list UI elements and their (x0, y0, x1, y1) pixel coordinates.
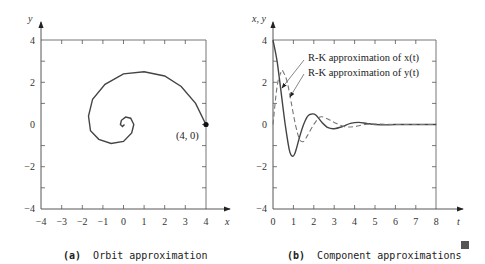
svg-text:4: 4 (352, 216, 357, 227)
ticks (41, 40, 206, 209)
svg-text:2: 2 (262, 77, 267, 88)
svg-text:7: 7 (413, 216, 418, 227)
legend-y-leader (290, 74, 304, 97)
orbit-plot: −4−3−2−101234420−2−4 y x (4, 0) (24, 13, 230, 227)
caption-b: (b) Component approximations (287, 250, 462, 261)
svg-text:5: 5 (373, 216, 378, 227)
caption-b-label: (b) (287, 250, 305, 261)
y-axis-label: x, y (251, 13, 266, 24)
point-label: (4, 0) (176, 130, 199, 142)
svg-text:3: 3 (332, 216, 337, 227)
svg-text:2: 2 (30, 77, 35, 88)
caption-a-label: (a) (63, 250, 81, 261)
svg-text:0: 0 (262, 119, 267, 130)
svg-text:4: 4 (203, 216, 208, 227)
svg-text:−4: −4 (24, 203, 35, 214)
svg-text:4: 4 (262, 35, 267, 46)
legend-x-leader (282, 60, 304, 88)
svg-text:−4: −4 (36, 216, 47, 227)
caption-a: (a) Orbit approximation (63, 250, 208, 261)
svg-text:−4: −4 (256, 203, 267, 214)
t-axis-label: t (457, 216, 460, 227)
y-series-line (273, 70, 436, 142)
figure: −4−3−2−101234420−2−4 y x (4, 0) 01234567… (0, 0, 485, 264)
svg-text:1: 1 (142, 216, 147, 227)
svg-text:−2: −2 (24, 161, 35, 172)
legend-x-label: R-K approximation of x(t) (308, 52, 420, 64)
svg-text:0: 0 (271, 216, 276, 227)
svg-text:2: 2 (162, 216, 167, 227)
svg-text:−1: −1 (98, 216, 109, 227)
start-point (203, 122, 208, 127)
svg-text:8: 8 (434, 216, 439, 227)
caption-a-text: Orbit approximation (93, 250, 207, 261)
y-axis-label: y (27, 13, 33, 24)
svg-text:2: 2 (311, 216, 316, 227)
svg-text:6: 6 (393, 216, 398, 227)
end-of-example-mark (461, 241, 469, 249)
tick-labels: 012345678420−2−4 (256, 35, 438, 227)
component-plot: 012345678420−2−4 x, y t R-K approximatio… (251, 13, 463, 227)
svg-text:−2: −2 (256, 161, 267, 172)
legend-y-label: R-K approximation of y(t) (308, 67, 420, 79)
svg-text:0: 0 (121, 216, 126, 227)
svg-text:1: 1 (291, 216, 296, 227)
svg-text:−3: −3 (56, 216, 67, 227)
x-axis-label: x (224, 216, 230, 227)
caption-b-text: Component approximations (317, 250, 462, 261)
svg-text:−2: −2 (77, 216, 88, 227)
svg-text:4: 4 (30, 35, 35, 46)
svg-text:3: 3 (183, 216, 188, 227)
svg-text:0: 0 (30, 119, 35, 130)
